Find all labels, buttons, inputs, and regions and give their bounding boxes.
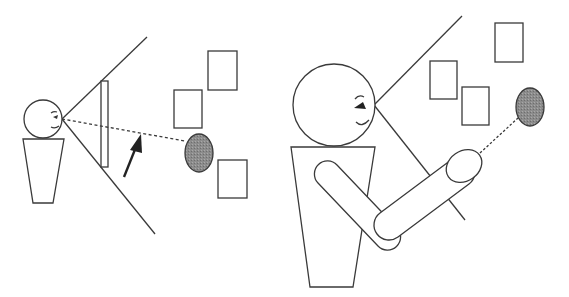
- distractor-rect: [462, 87, 489, 125]
- distractor-rect: [174, 90, 202, 128]
- distractor-rect: [495, 23, 523, 62]
- target-ellipse: [516, 88, 544, 126]
- distractor-rect: [208, 51, 237, 90]
- arrow-icon: [124, 134, 142, 177]
- distractor-rect: [430, 61, 457, 99]
- person-head: [24, 100, 62, 138]
- target-ellipse: [185, 134, 213, 172]
- person-left: [23, 100, 64, 203]
- screen-panel: [101, 81, 108, 167]
- diagram-canvas: [0, 0, 569, 297]
- distractor-rect: [218, 160, 247, 198]
- person-body: [23, 139, 64, 203]
- right-panel: [291, 16, 544, 287]
- person-right: [293, 64, 375, 146]
- gaze-dotted-line: [62, 119, 185, 141]
- left-panel: [23, 37, 247, 234]
